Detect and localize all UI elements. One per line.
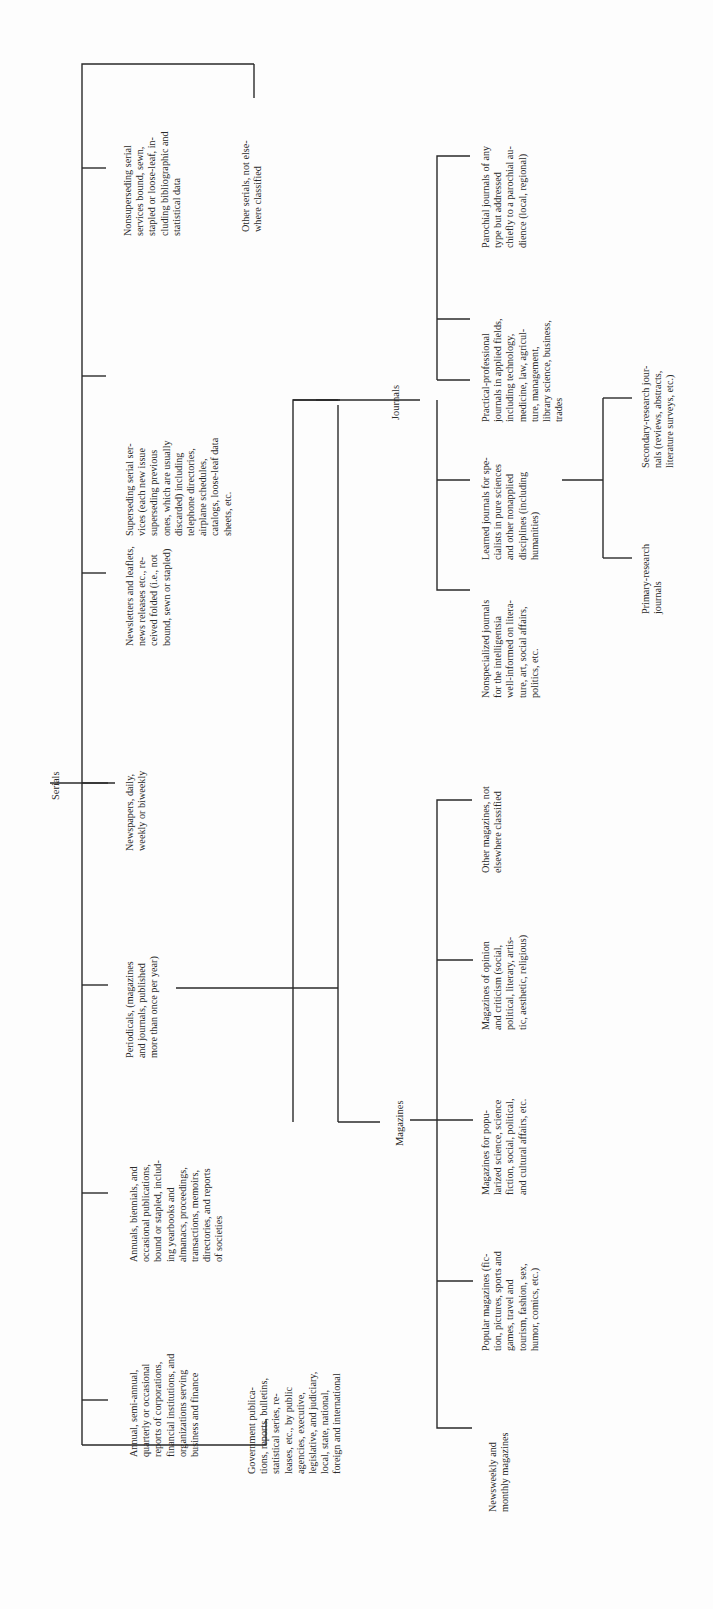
- node-newsletters: Newsletters and leaflets, news releases …: [124, 546, 173, 646]
- node-annuals: Annuals, biennials, and occasional publi…: [128, 1160, 226, 1262]
- node-parochial: Parochial journals of any type but addre…: [480, 146, 529, 248]
- node-superseding: Superseding serial ser- vices (each new …: [124, 438, 234, 536]
- node-newsweekly-magazines: Newsweekly and monthly magazines: [487, 1432, 511, 1512]
- node-popular-magazines: Popular magazines (fic- tion, pictures, …: [480, 1251, 541, 1351]
- node-journals: Journals: [390, 385, 402, 420]
- node-government: Government publica- tions, reports, bull…: [246, 1372, 344, 1474]
- node-nonsuperseding: Nonsuperseding serial services bound, se…: [122, 131, 183, 236]
- node-label: Journals: [390, 385, 401, 420]
- node-learned: Learned journals for spe- cialists in pu…: [480, 457, 541, 560]
- node-other-serials: Other serials, not else- where classifie…: [240, 140, 264, 232]
- node-periodicals: Periodicals, (magazines and journals, pu…: [124, 956, 161, 1058]
- node-practical: Practical-professional journals in appli…: [480, 318, 565, 422]
- node-magazines: Magazines: [394, 1101, 406, 1146]
- node-newspapers: Newspapers, daily, weekly or biweekly: [124, 771, 148, 851]
- node-label: Magazines: [394, 1101, 405, 1146]
- node-popularized-magazines: Magazines for popu- larized science, sci…: [480, 1099, 529, 1195]
- node-primary-research: Primary-research journals: [640, 544, 664, 614]
- node-secondary-research: Secondary-research jour- nals (reviews, …: [640, 366, 677, 468]
- node-annual-reports: Annual, semi-annual, quarterly or occasi…: [128, 1354, 201, 1457]
- node-opinion-magazines: Magazines of opinion and criticism (soci…: [480, 935, 529, 1030]
- node-serials: Serials: [50, 771, 62, 800]
- tree-connectors: [0, 0, 713, 1609]
- node-other-magazines: Other magazines, not elsewhere classifie…: [480, 786, 504, 873]
- node-label: Serials: [50, 771, 61, 800]
- node-nonspecialized: Nonspecialized journals for the intellig…: [480, 600, 541, 698]
